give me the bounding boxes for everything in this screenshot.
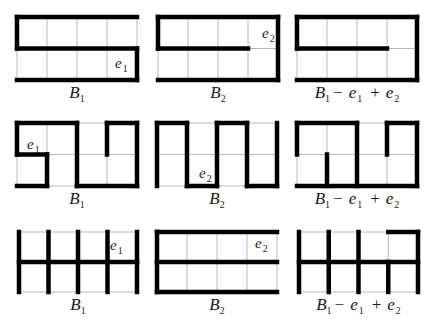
panel-caption: B1 (70, 295, 85, 316)
edge-label-e1: e1 (27, 136, 40, 155)
panel-r1p3: B1−e1+e2 (297, 17, 417, 104)
panel-caption: B1−e1+e2 (315, 189, 400, 210)
panel-caption: B1−e1+e2 (315, 83, 400, 104)
panel-r1p2: e2B2 (158, 17, 278, 104)
edge-label-e1: e1 (115, 55, 128, 74)
panel-caption: B2 (210, 83, 225, 104)
edge-label-e2: e2 (262, 25, 275, 44)
panel-r3p3: B1−e1+e2 (299, 232, 418, 316)
panel-r1p1: e1B1 (17, 17, 137, 104)
panel-r2p2: e2B2 (157, 123, 277, 210)
panel-caption: B1−e1+e2 (316, 295, 401, 316)
panel-r2p1: e1B1 (17, 123, 137, 210)
spanning-tree-edges (19, 232, 137, 292)
spanning-tree-edges (299, 232, 418, 292)
panel-caption: B1 (69, 189, 84, 210)
edge-label-e2: e2 (199, 165, 212, 184)
panel-r3p2: e2B2 (157, 232, 277, 316)
panel-caption: B1 (69, 83, 84, 104)
edge-label-e1: e1 (110, 237, 123, 256)
panel-r3p1: e1B1 (19, 232, 137, 316)
panel-caption: B2 (209, 189, 224, 210)
spanning-tree-diagram: e1B1e2B2B1−e1+e2e1B1e2B2B1−e1+e2e1B1e2B2… (0, 0, 434, 330)
panel-caption: B2 (209, 295, 224, 316)
edge-label-e2: e2 (255, 235, 268, 254)
panel-r2p3: B1−e1+e2 (297, 123, 417, 210)
